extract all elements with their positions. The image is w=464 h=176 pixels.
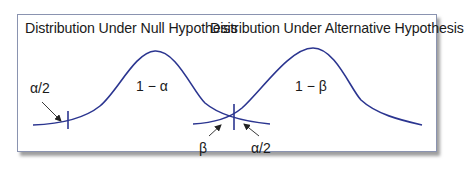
null-body-label: 1 − α bbox=[136, 78, 168, 94]
left-tail-alpha-label: α/2 bbox=[30, 80, 50, 96]
beta-label: β bbox=[199, 140, 207, 156]
beta-arrow bbox=[209, 125, 221, 136]
alt-body-label: 1 − β bbox=[295, 78, 327, 94]
right-tail-alpha-label: α/2 bbox=[251, 140, 271, 156]
right-tail-arrow bbox=[244, 124, 259, 136]
left-tail-arrow bbox=[42, 102, 61, 121]
